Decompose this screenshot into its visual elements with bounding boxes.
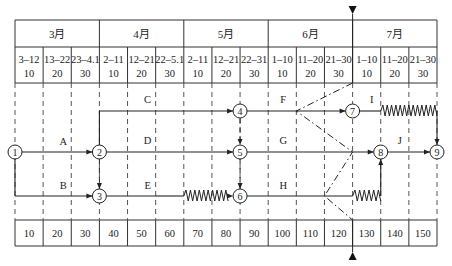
- activity-h-arrowhead: [378, 159, 383, 165]
- time-scale-label: 40: [108, 228, 119, 239]
- month-label: 5月: [218, 28, 235, 40]
- event-node-8-label: 8: [378, 147, 383, 158]
- period-range-label: 2–11: [103, 54, 124, 65]
- dummy-4-5-arrowhead: [238, 139, 243, 145]
- activity-j-arrowhead: [424, 150, 430, 155]
- time-scale-label: 110: [303, 228, 318, 239]
- event-node-4-label: 4: [238, 106, 243, 117]
- activity-label-g: G: [279, 135, 287, 146]
- period-range-label: 1–10: [272, 54, 293, 65]
- period-range-label: 11–20: [382, 54, 408, 65]
- activity-b-arrowhead: [86, 194, 92, 199]
- time-scale-label: 20: [52, 228, 63, 239]
- period-range-label: 13–22: [44, 54, 70, 65]
- dummy-5-6-arrowhead: [238, 183, 243, 189]
- period-range-label: 12–21: [213, 54, 239, 65]
- period-day-label: 30: [249, 68, 260, 79]
- time-scale-label: 90: [249, 228, 260, 239]
- activity-e-arrowhead: [227, 194, 233, 199]
- time-scale-label: 120: [331, 228, 347, 239]
- activity-label-a: A: [59, 136, 67, 147]
- time-scale-label: 100: [274, 228, 290, 239]
- event-node-9-label: 9: [435, 147, 440, 158]
- dummy-2-3-arrowhead: [97, 183, 102, 189]
- period-day-label: 10: [193, 68, 204, 79]
- activity-d-arrowhead: [227, 150, 233, 155]
- period-day-label: 20: [390, 68, 401, 79]
- event-node-6-label: 6: [238, 191, 243, 202]
- period-day-label: 20: [136, 68, 147, 79]
- period-range-label: 2–11: [188, 54, 209, 65]
- period-range-label: 1–10: [356, 54, 377, 65]
- period-range-label: 12–21: [128, 54, 154, 65]
- period-range-label: 21–30: [410, 54, 436, 65]
- month-label: 3月: [49, 28, 66, 40]
- activity-label-f: F: [280, 94, 286, 105]
- time-scale-label: 80: [221, 228, 232, 239]
- period-day-label: 10: [277, 68, 288, 79]
- activity-a-arrowhead: [86, 150, 92, 155]
- period-range-label: 3–12: [19, 54, 40, 65]
- period-day-label: 30: [418, 68, 429, 79]
- month-label: 4月: [133, 28, 150, 40]
- time-scale-label: 70: [193, 228, 204, 239]
- time-scale-label: 50: [136, 228, 147, 239]
- time-scale-label: 150: [415, 228, 431, 239]
- period-day-label: 10: [361, 68, 372, 79]
- activity-h-free-float-wave: [353, 190, 381, 201]
- activity-label-h: H: [279, 180, 287, 191]
- month-label: 6月: [302, 28, 319, 40]
- header-text: 3月4月5月6月7月3–121013–222023–4.1302–111012–…: [19, 28, 436, 240]
- month-label: 7月: [387, 28, 404, 40]
- activity-label-j: J: [398, 135, 402, 146]
- period-range-label: 23–4.1: [71, 54, 100, 65]
- period-day-label: 30: [80, 68, 91, 79]
- activity-g-arrowhead: [368, 150, 374, 155]
- time-scale-label: 140: [387, 228, 403, 239]
- period-day-label: 10: [108, 68, 119, 79]
- period-day-label: 20: [305, 68, 316, 79]
- period-range-label: 22–5.1: [155, 54, 184, 65]
- time-scaled-network-diagram: 123456789 ABCDEFGHIJ 3月4月5月6月7月3–121013–…: [0, 0, 452, 266]
- activity-label-b: B: [60, 180, 67, 191]
- period-range-label: 11–20: [297, 54, 323, 65]
- time-scale-label: 130: [359, 228, 375, 239]
- activity-i-arrowhead: [435, 139, 440, 145]
- check-line-bottom-marker-icon: [349, 252, 357, 260]
- check-line-top-marker-icon: [349, 6, 357, 14]
- event-node-2-label: 2: [97, 147, 102, 158]
- time-scale-label: 10: [24, 228, 35, 239]
- period-range-label: 21–30: [325, 54, 351, 65]
- activity-label-i: I: [370, 94, 374, 105]
- period-day-label: 10: [24, 68, 35, 79]
- period-day-label: 20: [52, 68, 63, 79]
- event-node-7-label: 7: [350, 106, 355, 117]
- time-scale-label: 60: [164, 228, 175, 239]
- time-scale-label: 30: [80, 228, 91, 239]
- activity-label-d: D: [144, 135, 152, 146]
- period-day-label: 30: [333, 68, 344, 79]
- event-nodes: 123456789: [8, 104, 444, 203]
- period-day-label: 20: [221, 68, 232, 79]
- event-node-3-label: 3: [97, 191, 102, 202]
- event-node-5-label: 5: [238, 147, 243, 158]
- activity-label-c: C: [144, 94, 151, 105]
- activity-c-arrowhead: [227, 109, 233, 114]
- activity-e-free-float-wave: [184, 190, 228, 201]
- event-node-1-label: 1: [13, 147, 18, 158]
- period-day-label: 30: [164, 68, 175, 79]
- progress-check-line: [296, 6, 356, 260]
- period-range-label: 22–31: [241, 54, 267, 65]
- activity-label-e: E: [144, 180, 150, 191]
- activity-f-arrowhead: [340, 109, 346, 114]
